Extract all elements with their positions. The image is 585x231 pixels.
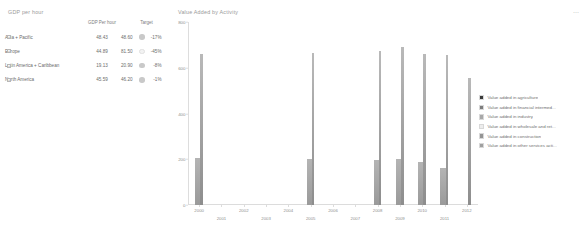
y-axis-tick-mark bbox=[186, 22, 188, 23]
x-axis-tick-mark bbox=[422, 205, 423, 207]
x-axis-tick-mark bbox=[266, 205, 267, 207]
kpi-status-indicator-icon bbox=[139, 49, 145, 55]
ellipsis-menu-icon[interactable]: ⋯ bbox=[573, 10, 580, 14]
x-axis-tick-label: 2001 bbox=[217, 216, 227, 221]
bar-other-services[interactable] bbox=[423, 54, 426, 205]
x-axis-tick-mark bbox=[199, 205, 200, 207]
legend-item[interactable]: Value added in wholesale and ret... bbox=[479, 122, 585, 132]
table-row[interactable]: +Latin America + Caribbean19.1320.90-8% bbox=[5, 59, 172, 73]
value-added-chart-panel: Value Added by Activity ⋯ 0200400600800 … bbox=[174, 0, 585, 231]
x-axis-tick-mark bbox=[378, 205, 379, 207]
gdp-per-hour-value: 44.89 bbox=[83, 44, 121, 58]
x-axis-tick-label: 2000 bbox=[194, 208, 204, 213]
y-axis-tick-label: 400 bbox=[178, 111, 185, 116]
region-cell: +Latin America + Caribbean bbox=[5, 59, 83, 73]
legend-label: Value added in agriculture bbox=[487, 95, 538, 100]
bar-other-services[interactable] bbox=[401, 47, 404, 205]
target-value: 48.60 bbox=[121, 35, 136, 40]
chart-plot-area: 0200400600800 20002001200220032004200520… bbox=[188, 22, 478, 205]
bar-group[interactable] bbox=[440, 22, 448, 205]
x-axis-tick-label: 2011 bbox=[440, 216, 449, 221]
legend-swatch-icon bbox=[479, 95, 484, 100]
target-value: 81.50 bbox=[121, 49, 136, 54]
y-axis-tick-mark bbox=[186, 159, 188, 160]
gdp-panel-title: GDP per hour bbox=[8, 9, 44, 15]
legend-swatch-icon bbox=[479, 114, 484, 119]
table-row[interactable]: +North America45.5946.20-1% bbox=[5, 73, 172, 87]
gdp-per-hour-value: 48.43 bbox=[83, 30, 121, 44]
expand-icon[interactable]: + bbox=[7, 49, 11, 53]
legend-item[interactable]: Value added in construction bbox=[479, 131, 585, 141]
x-axis-tick-label: 2007 bbox=[351, 216, 361, 221]
x-axis-tick-mark bbox=[311, 205, 312, 207]
legend-label: Value added in industry bbox=[487, 114, 533, 119]
legend-item[interactable]: Value added in industry bbox=[479, 112, 585, 122]
bar-other-services[interactable] bbox=[200, 54, 203, 205]
column-header-region bbox=[5, 20, 83, 30]
bar-other-services[interactable] bbox=[446, 55, 449, 205]
region-cell: +Asia + Pacific bbox=[5, 30, 83, 44]
bar-other-services[interactable] bbox=[379, 51, 382, 205]
target-cell: 48.60-17% bbox=[121, 30, 172, 44]
y-axis-tick-mark bbox=[186, 67, 188, 68]
target-cell: 20.90-8% bbox=[121, 59, 172, 73]
target-value: 20.90 bbox=[121, 63, 136, 68]
y-axis-line bbox=[188, 22, 189, 205]
legend-swatch-icon bbox=[479, 143, 484, 148]
bar-group[interactable] bbox=[195, 22, 203, 205]
column-header-target: Target bbox=[121, 20, 172, 30]
bar-other-services[interactable] bbox=[312, 53, 315, 205]
x-axis-tick-label: 2002 bbox=[239, 208, 249, 213]
bar-group[interactable] bbox=[418, 22, 426, 205]
x-axis-tick-mark bbox=[244, 205, 245, 207]
expand-icon[interactable]: + bbox=[7, 78, 11, 82]
bar-group[interactable] bbox=[396, 22, 404, 205]
bar-group[interactable] bbox=[463, 22, 471, 205]
legend-item[interactable]: Value added in agriculture bbox=[479, 93, 585, 103]
x-axis-tick-mark bbox=[333, 205, 334, 207]
variance-value: -1% bbox=[148, 77, 162, 82]
gdp-per-hour-value: 45.59 bbox=[83, 73, 121, 87]
bar-group[interactable] bbox=[374, 22, 382, 205]
x-axis-tick-label: 2012 bbox=[462, 208, 472, 213]
expand-icon[interactable]: + bbox=[7, 35, 11, 39]
x-axis-tick-mark bbox=[467, 205, 468, 207]
x-axis-tick-label: 2004 bbox=[284, 208, 294, 213]
y-axis-tick-label: 800 bbox=[178, 20, 185, 25]
table-row[interactable]: +Europe44.8981.50-45% bbox=[5, 44, 172, 58]
table-header-row: GDP Per hour Target bbox=[5, 20, 172, 30]
legend-label: Value added in financial intermed... bbox=[487, 105, 555, 110]
region-cell: +North America bbox=[5, 73, 83, 87]
x-axis-tick-mark bbox=[221, 205, 222, 207]
table-row[interactable]: +Asia + Pacific48.4348.60-17% bbox=[5, 30, 172, 44]
gdp-per-hour-panel: GDP per hour GDP Per hour Target +Asia +… bbox=[0, 0, 174, 231]
y-axis-tick-label: 600 bbox=[178, 65, 185, 70]
column-header-gdp-per-hour: GDP Per hour bbox=[83, 20, 121, 30]
y-axis-tick-mark bbox=[186, 113, 188, 114]
x-axis-tick-label: 2008 bbox=[373, 208, 383, 213]
x-axis-tick-mark bbox=[355, 205, 356, 207]
bar-other-services[interactable] bbox=[468, 78, 471, 205]
chart-legend: Value added in agricultureValue added in… bbox=[479, 93, 585, 151]
legend-swatch-icon bbox=[479, 105, 484, 110]
gdp-per-hour-value: 19.13 bbox=[83, 59, 121, 73]
x-axis-tick-mark bbox=[288, 205, 289, 207]
bar-group[interactable] bbox=[307, 22, 315, 205]
variance-value: -45% bbox=[148, 49, 162, 54]
target-cell: 46.20-1% bbox=[121, 73, 172, 87]
legend-item[interactable]: Value added in financial intermed... bbox=[479, 103, 585, 113]
variance-value: -17% bbox=[148, 35, 162, 40]
x-axis-tick-mark bbox=[400, 205, 401, 207]
legend-swatch-icon bbox=[479, 133, 484, 138]
x-axis-ticks: 2000200120022003200420052006200720082009… bbox=[188, 205, 478, 231]
legend-label: Value added in other services acti... bbox=[487, 143, 556, 148]
expand-icon[interactable]: + bbox=[7, 64, 11, 68]
variance-value: -8% bbox=[148, 63, 162, 68]
x-axis-tick-label: 2003 bbox=[261, 216, 271, 221]
legend-label: Value added in construction bbox=[487, 134, 541, 139]
target-cell: 81.50-45% bbox=[121, 44, 172, 58]
x-axis-tick-mark bbox=[445, 205, 446, 207]
region-label: Latin America + Caribbean bbox=[5, 63, 59, 68]
x-axis-tick-label: 2005 bbox=[306, 216, 316, 221]
legend-item[interactable]: Value added in other services acti... bbox=[479, 141, 585, 151]
